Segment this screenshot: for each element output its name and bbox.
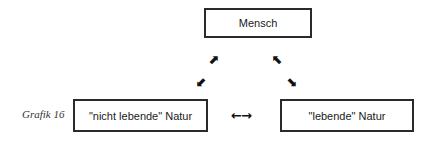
node-nicht-lebende-natur: "nicht lebende" Natur — [73, 99, 208, 132]
arrow-down-left-icon: ⬋ — [196, 75, 207, 88]
bidirectional-arrow-icon: ←→ — [231, 109, 251, 122]
arrow-up-left-icon: ⬉ — [272, 53, 283, 66]
arrow-up-right-icon: ⬈ — [208, 53, 219, 66]
figure-caption: Grafik 16 — [22, 108, 64, 120]
node-lebende-natur: "lebende" Natur — [280, 99, 414, 132]
arrow-down-right-icon: ⬊ — [286, 75, 297, 88]
node-mensch: Mensch — [204, 8, 312, 38]
